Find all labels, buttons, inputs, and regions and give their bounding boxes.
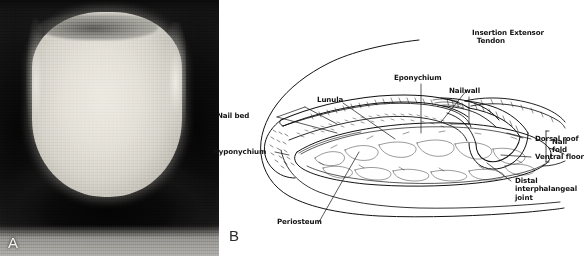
dorsal-roof <box>469 108 520 137</box>
leader-lunula <box>343 103 395 139</box>
photo-grain-overlay <box>0 0 219 256</box>
hyponychium-stipple <box>270 130 294 168</box>
label-lunula: Lunula <box>317 96 343 104</box>
leader-lines <box>275 84 531 222</box>
label-periosteum: Periosteum <box>277 218 322 226</box>
nail-fold-pocket-return <box>447 113 476 144</box>
extensor-tendon-fibers <box>481 99 553 122</box>
panel-a-photograph: A <box>0 0 219 256</box>
leader-nail-bed-a2 <box>305 107 337 124</box>
label-hyponychium: Hyponychium <box>213 148 266 156</box>
leader-ventral-floor <box>501 155 531 157</box>
panel-b-letter: B <box>229 228 239 243</box>
bone-cortex-top <box>301 127 523 154</box>
label-nail-bed: Nail bed <box>217 112 249 120</box>
extensor-tendon-lower <box>471 104 565 128</box>
nail-bed-stipple <box>297 114 452 137</box>
distal-phalanx-outline <box>295 123 551 186</box>
hyponychium-outline <box>264 120 295 178</box>
ventral-floor-outer <box>469 133 528 169</box>
label-eponychium: Eponychium <box>394 74 442 82</box>
panel-a-letter: A <box>8 235 19 250</box>
label-distal-interphalangeal-joint: Distal interphalangeal joint <box>515 177 577 202</box>
label-insertion-extensor-tendon: Insertion Extensor Tendon <box>472 29 544 46</box>
panel-b-diagram: Nail bed Lunula Eponychium Nailwall Inse… <box>219 0 566 256</box>
label-nail-fold: Nail fold <box>552 138 567 155</box>
label-nailwall: Nailwall <box>449 87 480 95</box>
